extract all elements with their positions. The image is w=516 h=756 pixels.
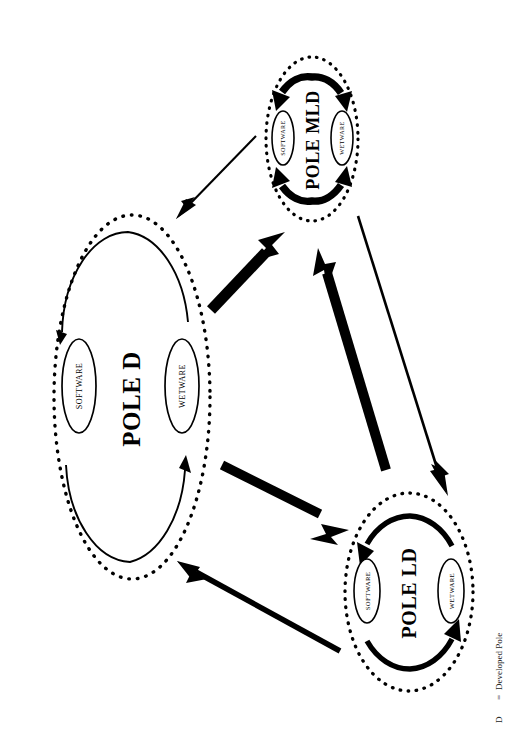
pole-ld-software-label: SOFTWARE [364, 572, 371, 611]
pole-diagram-svg: SOFTWARE WETWARE POLE D SOFTWARE [0, 0, 516, 756]
pole-ld-component-wetware[interactable]: WETWARE [438, 559, 464, 623]
legend-symbol: D [494, 716, 504, 723]
pole-d-component-wetware[interactable]: WETWARE [165, 339, 199, 433]
diagram-canvas: SOFTWARE WETWARE POLE D SOFTWARE [0, 0, 516, 756]
pole-mld-wetware-label: WETWARE [339, 121, 345, 154]
pole-d-wetware-label: WETWARE [178, 364, 187, 408]
pole-d-software-label: SOFTWARE [75, 363, 84, 409]
legend-equals: = [494, 695, 504, 700]
pole-mld-component-wetware[interactable]: WETWARE [331, 111, 353, 165]
pole-d-title: POLE D [118, 351, 145, 446]
pole-mld-software-label: SOFTWARE [280, 120, 286, 155]
pole-d-component-software[interactable]: SOFTWARE [62, 339, 96, 433]
pole-ld-title: POLE LD [398, 548, 420, 639]
pole-ld-wetware-label: WETWARE [448, 573, 455, 609]
pole-mld-component-software[interactable]: SOFTWARE [272, 111, 294, 165]
pole-mld-title: POLE MLD [303, 90, 323, 190]
legend-meaning: Developed Pole [494, 633, 504, 690]
pole-ld-component-software[interactable]: SOFTWARE [354, 559, 380, 623]
